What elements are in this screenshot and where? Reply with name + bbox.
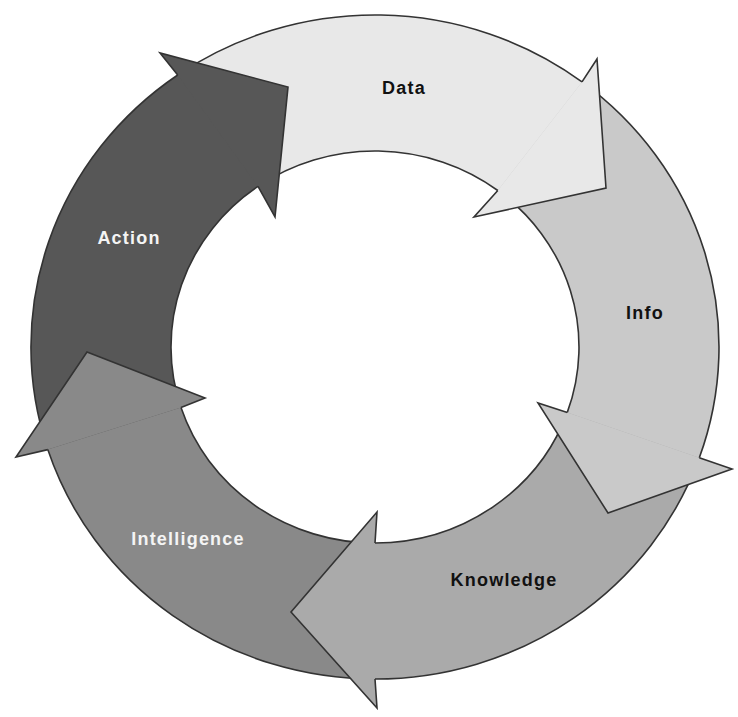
stage-label-info: Info (626, 303, 664, 323)
stage-label-data: Data (382, 78, 426, 98)
stage-label-action: Action (97, 228, 160, 248)
stage-label-intelligence: Intelligence (131, 529, 244, 549)
stage-label-knowledge: Knowledge (451, 570, 558, 590)
cycle-diagram: Data Info Knowledge Intelligence Action (0, 0, 738, 717)
